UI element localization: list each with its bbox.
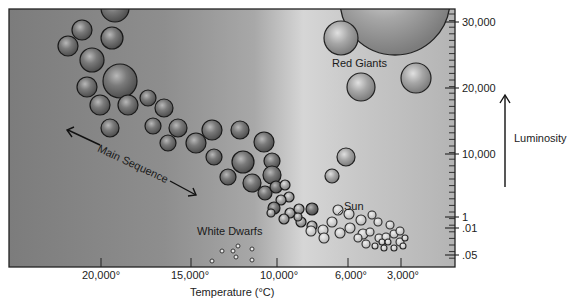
white-dwarf-star — [234, 255, 238, 259]
main-sequence-star — [243, 174, 261, 192]
main-sequence-star — [58, 36, 78, 56]
main-sequence-star — [232, 151, 254, 173]
y-tick-05: .05 — [462, 249, 477, 261]
cool-star — [335, 228, 345, 238]
main-sequence-star — [186, 133, 206, 153]
main-sequence-star — [231, 121, 249, 139]
red-giant-star — [337, 148, 355, 166]
main-sequence-star — [101, 0, 129, 22]
cool-star — [368, 211, 376, 219]
x-tick-3000: 3,000° — [387, 269, 419, 281]
y-tick-30000: 30,000 — [462, 16, 496, 28]
main-sequence-star — [72, 20, 92, 40]
cool-star — [306, 226, 316, 236]
y-tick-20000: 20,000 — [462, 82, 496, 94]
cool-star — [386, 221, 394, 229]
main-sequence-star — [254, 132, 274, 152]
cool-star — [356, 215, 366, 225]
main-sequence-star — [90, 95, 110, 115]
red-giant-star — [325, 169, 339, 183]
main-sequence-star — [80, 48, 104, 72]
y-tick-10000: 10,000 — [462, 148, 496, 160]
main-sequence-star — [101, 27, 123, 49]
main-sequence-star — [279, 214, 289, 224]
cool-star — [366, 228, 374, 236]
main-sequence-star — [118, 95, 138, 115]
red-giant-star — [324, 21, 358, 55]
white-dwarf-star — [210, 259, 214, 263]
main-sequence-star — [294, 213, 302, 221]
cool-star — [327, 217, 337, 227]
white-dwarf-star — [250, 247, 254, 251]
red-giant-star — [347, 73, 375, 101]
cool-star — [381, 245, 387, 251]
red-giants-label: Red Giants — [332, 57, 387, 69]
cool-star — [379, 239, 385, 245]
white-dwarf-star — [250, 258, 254, 262]
white-dwarf-star — [231, 249, 235, 253]
main-sequence-star — [103, 64, 137, 98]
y-tick-01: .01 — [462, 222, 477, 234]
red-giant-star — [401, 63, 431, 93]
cool-star — [372, 243, 378, 249]
cool-star — [400, 243, 406, 249]
main-sequence-star — [155, 99, 173, 117]
main-sequence-star — [169, 119, 187, 137]
x-tick-10000: 10,000° — [260, 269, 298, 281]
main-sequence-star — [160, 135, 176, 151]
main-sequence-star — [202, 120, 222, 140]
x-tick-20000: 20,000° — [82, 269, 120, 281]
white-dwarf-star — [220, 249, 224, 253]
cool-star — [396, 227, 404, 235]
cool-star — [402, 235, 408, 241]
cool-star — [374, 218, 382, 226]
main-sequence-star — [306, 203, 318, 215]
y-axis-title: Luminosity — [514, 132, 567, 144]
x-tick-15000: 15,000° — [171, 269, 209, 281]
cool-star — [362, 240, 370, 248]
cool-star — [319, 233, 329, 243]
main-sequence-star — [101, 119, 119, 137]
luminosity-arrow — [500, 95, 510, 187]
x-axis-title: Temperature (°C) — [190, 286, 274, 298]
main-sequence-star — [280, 180, 290, 190]
cool-star — [354, 234, 362, 242]
main-sequence-star — [206, 149, 222, 165]
sun-label: Sun — [344, 200, 364, 212]
main-sequence-star — [220, 169, 236, 185]
hr-diagram: 30,000 20,000 10,000 1 .01 .05 20,000° 1… — [0, 0, 574, 305]
x-tick-6000: 6,000° — [335, 269, 367, 281]
main-sequence-star — [140, 90, 156, 106]
main-sequence-star — [77, 77, 97, 97]
cool-star — [385, 239, 391, 245]
white-dwarfs-label: White Dwarfs — [197, 225, 262, 237]
main-sequence-star — [294, 204, 304, 214]
main-sequence-star — [267, 209, 275, 217]
cool-star — [345, 223, 355, 233]
white-dwarf-star — [236, 244, 240, 248]
cool-star — [391, 245, 397, 251]
main-sequence-star — [145, 118, 161, 134]
